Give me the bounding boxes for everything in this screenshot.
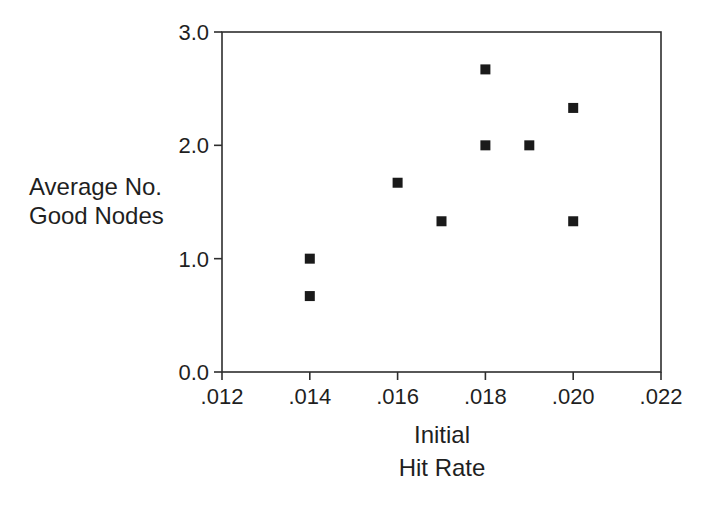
x-axis-title-line-2: Hit Rate bbox=[222, 451, 662, 484]
data-point bbox=[393, 178, 403, 188]
data-point bbox=[568, 216, 578, 226]
data-point bbox=[437, 216, 447, 226]
x-tick-label: .020 bbox=[552, 384, 595, 409]
x-axis-title-line-1: Initial bbox=[222, 418, 662, 451]
y-tick-label: 1.0 bbox=[178, 247, 209, 272]
x-tick-label: .012 bbox=[201, 384, 244, 409]
y-axis-title-line-1: Average No. bbox=[29, 172, 164, 201]
data-point bbox=[480, 140, 490, 150]
x-tick-label: .016 bbox=[376, 384, 419, 409]
y-axis-title-line-2: Good Nodes bbox=[29, 201, 164, 230]
data-point bbox=[480, 64, 490, 74]
data-point bbox=[524, 140, 534, 150]
data-point bbox=[305, 254, 315, 264]
y-tick-label: 0.0 bbox=[178, 360, 209, 385]
data-point bbox=[568, 103, 578, 113]
scatter-plot-figure: .012.014.016.018.020.0220.01.02.03.0 Ave… bbox=[0, 0, 712, 509]
data-point bbox=[305, 291, 315, 301]
x-axis-title: Initial Hit Rate bbox=[222, 418, 662, 484]
y-axis-title: Average No. Good Nodes bbox=[29, 172, 164, 230]
x-tick-label: .014 bbox=[288, 384, 331, 409]
y-tick-label: 3.0 bbox=[178, 20, 209, 45]
x-tick-label: .018 bbox=[464, 384, 507, 409]
x-tick-label: .022 bbox=[640, 384, 683, 409]
y-tick-label: 2.0 bbox=[178, 133, 209, 158]
plot-frame bbox=[222, 32, 661, 372]
